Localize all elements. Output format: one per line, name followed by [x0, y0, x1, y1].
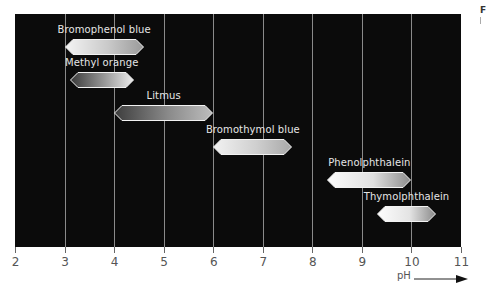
indicator-range-bar	[114, 105, 213, 121]
x-tick	[65, 247, 66, 253]
x-tick-label: 9	[359, 255, 367, 269]
x-tick	[114, 247, 115, 253]
indicator-label: Litmus	[147, 90, 181, 101]
indicator-label: Phenolphthalein	[328, 157, 410, 168]
indicator-label: Methyl orange	[65, 57, 138, 68]
x-tick-label: 2	[12, 255, 20, 269]
gridline	[164, 14, 165, 247]
x-tick-label: 8	[309, 255, 317, 269]
x-tick-label: 10	[404, 255, 419, 269]
indicator-range-bar	[65, 39, 144, 55]
x-tick	[263, 247, 264, 253]
x-tick	[362, 247, 363, 253]
corner-mark	[480, 17, 481, 24]
x-tick-label: 5	[160, 255, 168, 269]
x-tick	[461, 247, 462, 253]
indicator-range-bar	[327, 172, 411, 188]
x-axis-label: pH	[397, 270, 411, 281]
arrow-right-icon	[414, 275, 468, 283]
gridline	[312, 14, 313, 247]
x-tick-label: 4	[111, 255, 119, 269]
indicator-label: Bromophenol blue	[58, 24, 151, 35]
x-tick-label: 3	[61, 255, 69, 269]
x-tick	[164, 247, 165, 253]
x-tick	[312, 247, 313, 253]
x-tick	[411, 247, 412, 253]
x-tick	[15, 247, 16, 253]
gridline	[362, 14, 363, 247]
indicator-range-bar	[377, 206, 436, 222]
x-tick-label: 7	[259, 255, 267, 269]
x-tick	[213, 247, 214, 253]
corner-text: F	[480, 5, 486, 15]
x-tick-label: 6	[210, 255, 218, 269]
indicator-range-bar	[213, 139, 292, 155]
indicator-label: Bromothymol blue	[206, 124, 300, 135]
indicator-range-bar	[70, 72, 134, 88]
indicator-label: Thymolphthalein	[364, 191, 450, 202]
x-tick-label: 11	[454, 255, 469, 269]
